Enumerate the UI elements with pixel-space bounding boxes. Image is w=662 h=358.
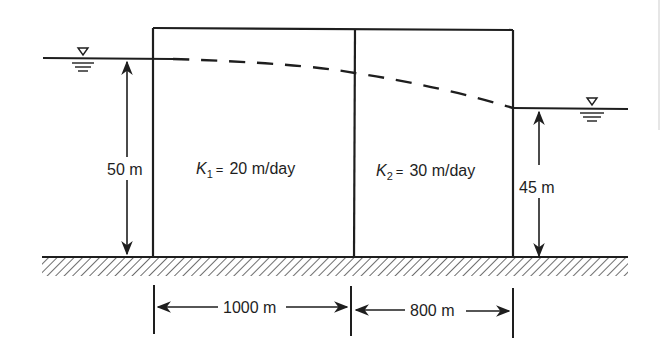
aquifer-diagram: 50 m 45 m K1=20 m/day K2=30 m/day 1000 m… (0, 0, 662, 358)
right-head-label: 45 m (519, 179, 555, 196)
block-top-edge (153, 28, 513, 30)
zone-2-permeability-label: K2=30 m/day (376, 162, 475, 182)
left-head-label: 50 m (107, 161, 143, 178)
zone-2-length-label: 800 m (410, 302, 454, 319)
zone-1-permeability-label: K1=20 m/day (196, 160, 295, 180)
k2-subscript: 2 (387, 170, 393, 182)
water-table-triangle-icon (587, 98, 597, 105)
phreatic-line (173, 59, 513, 108)
right-water-surface (513, 108, 628, 109)
ground-hatch (42, 258, 628, 276)
left-water-surface (43, 58, 173, 59)
left-head-dimension: 50 m (107, 62, 143, 254)
zone-divider (354, 29, 355, 257)
water-table-triangle-icon (78, 48, 88, 55)
right-head-dimension: 45 m (519, 112, 555, 256)
zone-1-length-label: 1000 m (223, 299, 276, 316)
k2-value: 30 m/day (409, 162, 475, 179)
k1-subscript: 1 (207, 168, 213, 180)
k1-value: 20 m/day (229, 160, 295, 177)
k1-equals: = (216, 162, 224, 177)
impermeable-base (42, 257, 628, 276)
k2-equals: = (396, 164, 404, 179)
aquifer-block (153, 28, 513, 257)
right-water-level (513, 98, 628, 121)
length-dimensions (154, 285, 513, 338)
